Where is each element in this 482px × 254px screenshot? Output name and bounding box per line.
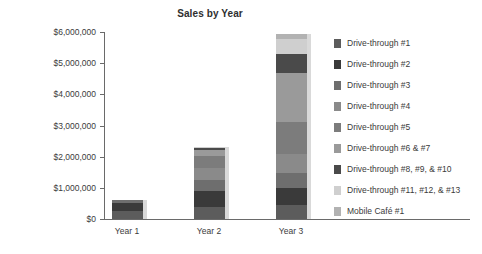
y-axis-label: $0 xyxy=(14,214,96,224)
bar-segment xyxy=(112,203,143,211)
chart-legend: Drive-through #1Drive-through #2Drive-th… xyxy=(334,33,482,222)
legend-label: Drive-through #2 xyxy=(347,60,410,69)
y-axis-tick xyxy=(100,32,105,33)
x-axis-label-3: Year 3 xyxy=(261,226,321,236)
legend-label: Drive-through #5 xyxy=(347,123,410,132)
bar-segment xyxy=(194,168,225,180)
chart-title: Sales by Year xyxy=(110,8,310,19)
legend-label: Drive-through #3 xyxy=(347,81,410,90)
legend-item-9[interactable]: Mobile Café #1 xyxy=(334,201,482,222)
x-axis-label-2: Year 2 xyxy=(179,226,239,236)
y-axis-tick xyxy=(100,157,105,158)
bar-segment xyxy=(276,39,307,54)
bar-segment xyxy=(194,207,225,219)
legend-swatch-icon xyxy=(334,81,341,90)
y-axis-label: $2,000,000 xyxy=(14,152,96,162)
y-axis-tick xyxy=(100,188,105,189)
bar-segment xyxy=(276,54,307,72)
bar-segment xyxy=(276,122,307,155)
bar-segment xyxy=(112,200,143,203)
chart-container: Sales by Year $0$1,000,000$2,000,000$3,0… xyxy=(0,0,482,254)
legend-swatch-icon xyxy=(334,102,341,111)
legend-label: Drive-through #8, #9, & #10 xyxy=(347,165,451,174)
legend-label: Drive-through #6 & #7 xyxy=(347,144,430,153)
legend-item-7[interactable]: Drive-through #8, #9, & #10 xyxy=(334,159,482,180)
bar-segment xyxy=(194,191,225,207)
y-axis-tick xyxy=(100,219,105,220)
bar-shadow xyxy=(225,147,229,219)
y-axis-label: $6,000,000 xyxy=(14,27,96,37)
bar-segment xyxy=(194,147,225,148)
legend-label: Mobile Café #1 xyxy=(347,207,404,216)
bar-shadow xyxy=(143,200,147,219)
bar-3 xyxy=(276,32,307,219)
legend-item-3[interactable]: Drive-through #3 xyxy=(334,75,482,96)
y-axis-label: $5,000,000 xyxy=(14,58,96,68)
bar-segment xyxy=(194,156,225,168)
legend-swatch-icon xyxy=(334,39,341,48)
legend-swatch-icon xyxy=(334,60,341,69)
bar-segment xyxy=(276,188,307,205)
legend-swatch-icon xyxy=(334,123,341,132)
bar-segment xyxy=(276,173,307,188)
bar-segment xyxy=(276,205,307,219)
bar-segment xyxy=(112,211,143,219)
y-axis-label: $3,000,000 xyxy=(14,121,96,131)
legend-swatch-icon xyxy=(334,165,341,174)
bar-segment xyxy=(194,150,225,156)
y-axis-tick xyxy=(100,126,105,127)
y-axis-tick xyxy=(100,63,105,64)
y-axis-tick xyxy=(100,94,105,95)
bar-1 xyxy=(112,32,143,219)
legend-item-1[interactable]: Drive-through #1 xyxy=(334,33,482,54)
legend-label: Drive-through #11, #12, & #13 xyxy=(347,186,460,195)
legend-swatch-icon xyxy=(334,144,341,153)
legend-swatch-icon xyxy=(334,186,341,195)
legend-label: Drive-through #1 xyxy=(347,39,410,48)
bar-segment xyxy=(194,180,225,191)
legend-item-2[interactable]: Drive-through #2 xyxy=(334,54,482,75)
y-axis-label: $1,000,000 xyxy=(14,183,96,193)
legend-item-4[interactable]: Drive-through #4 xyxy=(334,96,482,117)
bar-segment xyxy=(276,34,307,40)
x-axis-label-1: Year 1 xyxy=(97,226,157,236)
bar-2 xyxy=(194,32,225,219)
bar-segment xyxy=(194,148,225,150)
legend-label: Drive-through #4 xyxy=(347,102,410,111)
legend-item-5[interactable]: Drive-through #5 xyxy=(334,117,482,138)
legend-swatch-icon xyxy=(334,207,341,216)
legend-item-6[interactable]: Drive-through #6 & #7 xyxy=(334,138,482,159)
bar-shadow xyxy=(307,34,311,219)
y-axis-label: $4,000,000 xyxy=(14,89,96,99)
bar-segment xyxy=(276,73,307,122)
bar-segment xyxy=(276,154,307,172)
legend-item-8[interactable]: Drive-through #11, #12, & #13 xyxy=(334,180,482,201)
